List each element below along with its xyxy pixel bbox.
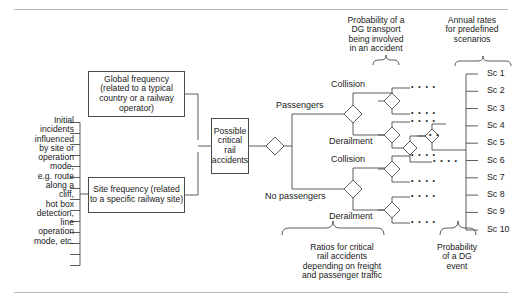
ellipsis-mark: • •: [429, 131, 440, 139]
branch-label-collision-upper: Collision: [331, 79, 365, 89]
scenario-label-5[interactable]: Sc 5: [487, 137, 505, 147]
ellipsis-mark: • • • •: [411, 117, 436, 125]
scenario-label-4[interactable]: Sc 4: [487, 120, 505, 130]
branch-label-collision-lower: Collision: [331, 154, 365, 164]
ellipsis-mark: • • • •: [411, 109, 436, 117]
ellipsis-mark: • • • •: [411, 177, 436, 185]
box-site-frequency-label: Site frequency (related to a specific ra…: [89, 185, 184, 204]
ellipsis-mark: • • • •: [411, 83, 436, 91]
header-probability-dg-transport: Probability of a DG transport being invo…: [330, 16, 422, 53]
scenario-label-6[interactable]: Sc 6: [487, 155, 505, 165]
box-global-frequency[interactable]: Global frequency (related to a typical c…: [88, 71, 185, 117]
ellipsis-mark: • • • •: [411, 218, 436, 226]
scenario-label-9[interactable]: Sc 9: [487, 206, 505, 216]
initial-incidents-description: Initial incidents influenced by site or …: [2, 116, 74, 246]
caption-probability-dg-event: Probability of a DG event: [424, 243, 490, 271]
box-site-frequency[interactable]: Site frequency (related to a specific ra…: [88, 177, 185, 213]
box-global-frequency-label: Global frequency (related to a typical c…: [89, 75, 184, 114]
scenario-label-8[interactable]: Sc 8: [487, 189, 505, 199]
box-possible-critical-rail-accidents[interactable]: Possible critical rail accidents: [211, 118, 249, 174]
scenario-label-7[interactable]: Sc 7: [487, 172, 505, 182]
scenario-label-2[interactable]: Sc 2: [487, 85, 505, 95]
branch-label-derailment-lower: Derailment: [329, 211, 373, 221]
ellipsis-mark: • • • •: [411, 151, 436, 159]
scenario-label-3[interactable]: Sc 3: [487, 103, 505, 113]
branch-label-passengers: Passengers: [276, 100, 324, 110]
branch-label-derailment-upper: Derailment: [329, 136, 373, 146]
header-annual-rates: Annual rates for predefined scenarios: [430, 16, 514, 44]
caption-ratios-critical-rail-accidents: Ratios for critical rail accidents depen…: [262, 243, 422, 280]
scenario-label-1[interactable]: Sc 1: [487, 68, 505, 78]
ellipsis-mark: • • • •: [411, 192, 436, 200]
ellipsis-mark: • • • •: [433, 157, 458, 165]
event-tree-diagram: Global frequency (related to a typical c…: [0, 0, 522, 305]
branch-label-no-passengers: No passengers: [265, 191, 326, 201]
scenario-label-10[interactable]: Sc 10: [487, 224, 510, 234]
box-possible-critical-label: Possible critical rail accidents: [212, 127, 248, 166]
